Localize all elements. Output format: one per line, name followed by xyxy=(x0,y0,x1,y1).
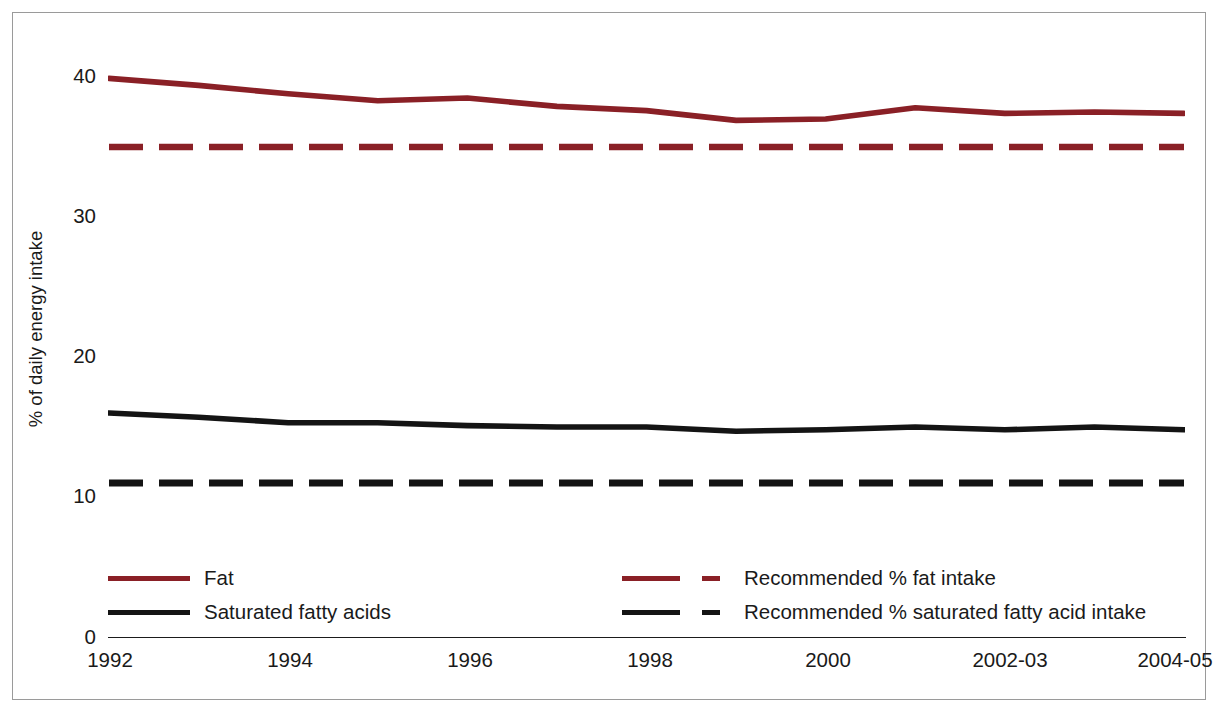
y-tick-30: 30 xyxy=(73,206,96,227)
legend-label-fat: Fat xyxy=(204,568,234,589)
x-axis-labels: 1992 1994 1996 1998 2000 2002-03 2004-05 xyxy=(0,650,1220,690)
legend-label-recommended-saturated: Recommended % saturated fatty acid intak… xyxy=(744,602,1146,623)
x-axis-line xyxy=(108,637,1186,638)
y-axis-title: % of daily energy intake xyxy=(25,214,47,444)
chart-legend: Fat Saturated fatty acids Recommended % … xyxy=(108,557,1188,629)
legend-swatch-solid-saturated-icon xyxy=(108,610,190,615)
legend-swatch-solid-fat-icon xyxy=(108,576,190,581)
series-saturated-fatty-acids xyxy=(109,413,1184,431)
y-axis-labels: 40 30 20 10 0 % of daily energy intake xyxy=(0,0,96,719)
y-tick-20: 20 xyxy=(73,346,96,367)
x-tick-1994: 1994 xyxy=(267,650,313,671)
plot-area xyxy=(108,20,1185,640)
legend-swatch-dashed-saturated-icon xyxy=(622,610,732,615)
legend-dash-segment-long xyxy=(622,576,680,581)
y-tick-10: 10 xyxy=(73,486,96,507)
y-tick-40: 40 xyxy=(73,66,96,87)
y-tick-0: 0 xyxy=(85,627,96,648)
legend-item-recommended-fat: Recommended % fat intake xyxy=(622,563,996,593)
legend-dash-segment-long xyxy=(622,610,680,615)
legend-item-recommended-saturated: Recommended % saturated fatty acid intak… xyxy=(622,597,1146,627)
x-tick-2000: 2000 xyxy=(805,650,851,671)
x-tick-1996: 1996 xyxy=(447,650,493,671)
series-fat xyxy=(109,78,1184,120)
x-tick-2002-03: 2002-03 xyxy=(972,650,1047,671)
legend-item-saturated-fatty-acids: Saturated fatty acids xyxy=(108,597,391,627)
legend-item-fat: Fat xyxy=(108,563,234,593)
x-tick-1992: 1992 xyxy=(87,650,133,671)
legend-label-recommended-fat: Recommended % fat intake xyxy=(744,568,996,589)
chart-figure: 40 30 20 10 0 % of daily energy intake F… xyxy=(0,0,1220,719)
legend-swatch-dashed-fat-icon xyxy=(622,576,732,581)
legend-label-saturated-fatty-acids: Saturated fatty acids xyxy=(204,602,391,623)
legend-dash-segment-short xyxy=(702,576,720,581)
legend-dash-segment-short xyxy=(702,610,720,615)
x-tick-2004-05: 2004-05 xyxy=(1137,650,1212,671)
x-tick-1998: 1998 xyxy=(627,650,673,671)
